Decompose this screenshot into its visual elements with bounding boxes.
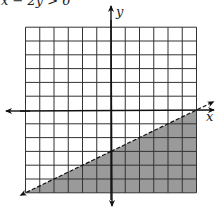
y-axis-label: y [115,4,124,19]
inequality-graph: x y [0,0,218,208]
y-axis-down-arrow [111,20,112,206]
x-axis [20,110,214,111]
x-axis-label: x [206,109,214,124]
